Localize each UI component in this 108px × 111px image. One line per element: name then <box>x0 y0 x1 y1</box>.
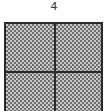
quadrant-grid <box>4 22 103 111</box>
figure-label: 4 <box>0 1 108 13</box>
horizontal-divider <box>6 71 101 73</box>
vertical-divider <box>54 24 56 111</box>
